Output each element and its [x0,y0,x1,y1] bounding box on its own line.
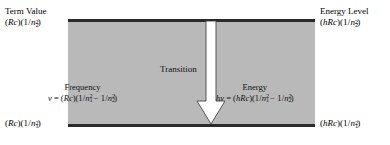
symbol-nu: ν [48,93,52,103]
transition-arrow [194,21,228,125]
label-term-value-lower-expression: (Rc)(1/n12 ) [5,118,41,129]
upper-energy-level-line [68,19,315,22]
symbol-nu: ν [220,93,224,103]
label-energy-level: Energy Level (hRc)(1/n22 ) [320,6,369,28]
frequency-title: Frequency [48,82,117,93]
label-energy-level-lower-expression: (hRc)(1/n12 ) [320,118,360,129]
energy-level-diagram: Term Value (Rc)(1/n22 ) (Rc)(1/n12 ) Ene… [0,0,390,145]
label-term-value-title: Term Value [5,6,46,17]
label-energy-level-expression: (hRc)(1/n22 ) [320,17,369,28]
symbol-c: c [14,17,18,27]
symbol-n: n22 [350,17,355,28]
symbol-n: n22 [31,17,36,28]
label-energy-level-lower: (hRc)(1/n12 ) [320,118,360,129]
symbol-c: c [14,118,18,128]
symbol-n: n12 [262,93,266,104]
symbol-n: n12 [85,93,89,104]
symbol-n: n12 [350,118,355,129]
energy-title: Energy [216,82,293,93]
symbol-c: c [333,118,337,128]
label-term-value-lower: (Rc)(1/n12 ) [5,118,41,129]
symbol-n: n22 [108,93,112,104]
transition-label: Transition [160,64,197,75]
energy-expression: hν = (hRc)(1/n12 − 1/n22 ) [216,93,293,104]
symbol-n: n22 [284,93,288,104]
label-term-value-expression: (Rc)(1/n22 ) [5,17,46,28]
symbol-c: c [245,93,249,103]
symbol-c: c [69,93,73,103]
lower-energy-level-line [68,124,315,127]
frequency-annotation: Frequency ν = (Rc)(1/n12 − 1/n22 ) [48,82,117,103]
symbol-n: n12 [31,118,36,129]
frequency-expression: ν = (Rc)(1/n12 − 1/n22 ) [48,93,117,104]
symbol-c: c [333,17,337,27]
label-energy-level-title: Energy Level [320,6,369,17]
label-term-value: Term Value (Rc)(1/n22 ) [5,6,46,28]
energy-annotation: Energy hν = (hRc)(1/n12 − 1/n22 ) [216,82,293,103]
